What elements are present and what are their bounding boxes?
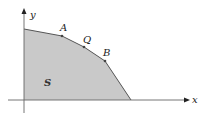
y-axis-arrow-icon (22, 8, 27, 14)
point-b-label: B (102, 47, 110, 58)
region-s (24, 29, 131, 100)
region-s-label: S (44, 77, 51, 88)
point-q (83, 46, 86, 49)
point-b (104, 60, 107, 63)
point-q-label: Q (83, 34, 91, 45)
region-diagram: y x A Q B S (0, 0, 206, 118)
y-axis-label: y (29, 9, 36, 20)
x-axis-arrow-icon (184, 98, 190, 103)
point-a (61, 35, 64, 38)
point-a-label: A (59, 22, 67, 33)
x-axis-label: x (192, 94, 198, 105)
